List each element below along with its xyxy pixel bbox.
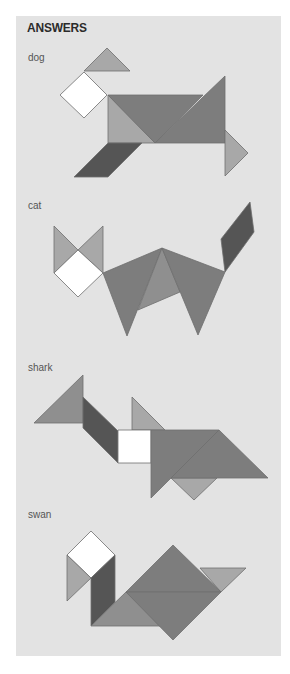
shark-small-triangle-4 xyxy=(171,478,217,500)
tangram-shark xyxy=(34,375,268,500)
tangram-dog xyxy=(60,48,248,177)
shark-parallelogram-1 xyxy=(83,397,118,463)
shark-square-3 xyxy=(118,430,151,463)
shark-medium-triangle-0 xyxy=(34,375,83,423)
tangram-swan xyxy=(67,531,246,640)
cat-parallelogram-6 xyxy=(221,202,254,272)
dog-square-1 xyxy=(60,72,107,118)
dog-small-triangle-0 xyxy=(84,48,130,71)
dog-small-triangle-5 xyxy=(225,130,248,176)
tangram-cat xyxy=(54,202,254,336)
shark-small-triangle-2 xyxy=(132,397,165,430)
tangram-figures xyxy=(0,0,290,674)
dog-parallelogram-6 xyxy=(74,143,142,177)
